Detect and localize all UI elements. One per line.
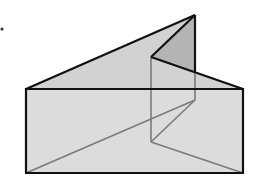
front-face [26, 89, 243, 173]
prism-diagram [0, 0, 253, 184]
marker-dot [0, 27, 3, 30]
